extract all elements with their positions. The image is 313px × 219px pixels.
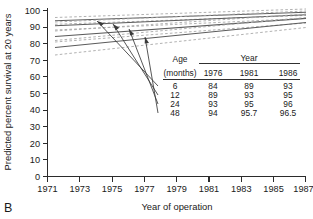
table-column-header-1981: 1981 (240, 68, 259, 78)
arrowhead-icon (129, 29, 134, 36)
y-tick-label: 50 (30, 89, 40, 99)
y-tick-label: 20 (30, 139, 40, 149)
table-column-header-1986: 1986 (279, 68, 298, 78)
x-tick-label: 1985 (263, 184, 283, 194)
x-axis-title: Year of operation (141, 201, 212, 212)
curve-6-fit (55, 23, 306, 48)
table-cell-age: 48 (170, 108, 180, 118)
curve-group-12-months (55, 14, 306, 42)
inset-data-table: Age (months) Year 1976 1981 1986 6 84 89… (163, 53, 300, 118)
y-tick-label: 90 (30, 22, 40, 32)
curve-12-fit (55, 18, 306, 36)
y-tick-label: 70 (30, 56, 40, 66)
figure-panel-b: 100 90 80 70 60 50 40 30 20 10 0 1971 1 (0, 0, 313, 219)
table-header-age-line2: (months) (163, 68, 196, 78)
x-tick-label: 1983 (231, 184, 251, 194)
table-row: 24 93 95 96 (170, 99, 293, 109)
leader-line-24-months (129, 29, 158, 104)
y-axis-tick-labels: 100 90 80 70 60 50 40 30 20 10 0 (25, 6, 40, 182)
y-tick-label: 10 (30, 155, 40, 165)
table-header-group-year: Year (241, 53, 258, 63)
table-row: 6 84 89 93 (173, 81, 293, 91)
table-cell-value: 96.5 (280, 108, 297, 118)
x-tick-label: 1975 (102, 184, 122, 194)
table-header-age-line1: Age (173, 54, 188, 64)
x-tick-label: 1973 (70, 184, 90, 194)
x-tick-label: 1987 (293, 184, 313, 194)
annotation-leader-lines (97, 21, 158, 113)
table-column-header-1976: 1976 (204, 68, 223, 78)
table-cell-value: 94 (208, 108, 218, 118)
x-axis-tick-labels: 1971 1973 1975 1977 1979 1981 1983 1985 … (37, 184, 313, 194)
table-row: 12 89 93 95 (170, 90, 293, 100)
survival-chart: 100 90 80 70 60 50 40 30 20 10 0 1971 1 (0, 0, 313, 219)
y-axis-title: Predicted percent survival at 20 years (2, 13, 13, 170)
table-cell-value: 95.7 (241, 108, 258, 118)
panel-label: B (4, 201, 12, 215)
x-tick-label: 1979 (166, 184, 186, 194)
curve-6-lower-ci (55, 28, 306, 56)
y-tick-label: 60 (30, 72, 40, 82)
y-tick-label: 40 (30, 105, 40, 115)
y-tick-label: 80 (30, 39, 40, 49)
y-tick-label: 100 (25, 6, 40, 16)
table-row: 48 94 95.7 96.5 (170, 108, 296, 118)
x-tick-label: 1981 (199, 184, 219, 194)
curve-group-6-months (55, 18, 306, 56)
x-tick-label: 1971 (37, 184, 57, 194)
x-tick-label: 1977 (134, 184, 154, 194)
y-tick-label: 0 (35, 172, 40, 182)
y-tick-label: 30 (30, 122, 40, 132)
